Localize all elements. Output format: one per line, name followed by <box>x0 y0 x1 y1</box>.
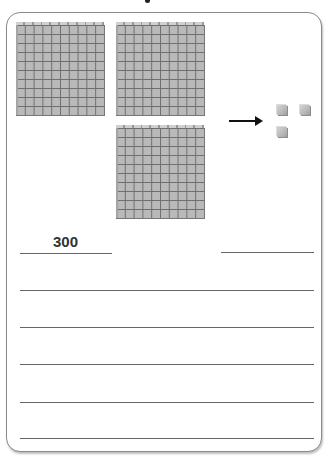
hundred-block-2 <box>116 25 205 116</box>
arrow-icon <box>229 120 257 122</box>
unit-cube-3 <box>277 127 287 137</box>
writing-line-4[interactable] <box>20 402 314 403</box>
writing-line-2[interactable] <box>20 327 314 328</box>
hundreds-answer: 300 <box>53 233 78 250</box>
hundred-block-1 <box>16 25 105 116</box>
hundreds-answer-line[interactable] <box>20 253 112 254</box>
unit-cube-1 <box>277 105 287 115</box>
arrow-head-icon <box>255 116 263 126</box>
writing-line-5[interactable] <box>20 438 314 439</box>
ones-answer-line[interactable] <box>221 252 314 253</box>
writing-line-1[interactable] <box>20 290 314 291</box>
hundred-block-3 <box>116 128 205 219</box>
writing-line-3[interactable] <box>20 364 314 365</box>
unit-cube-2 <box>300 105 310 115</box>
cut-off-mark <box>145 0 150 3</box>
